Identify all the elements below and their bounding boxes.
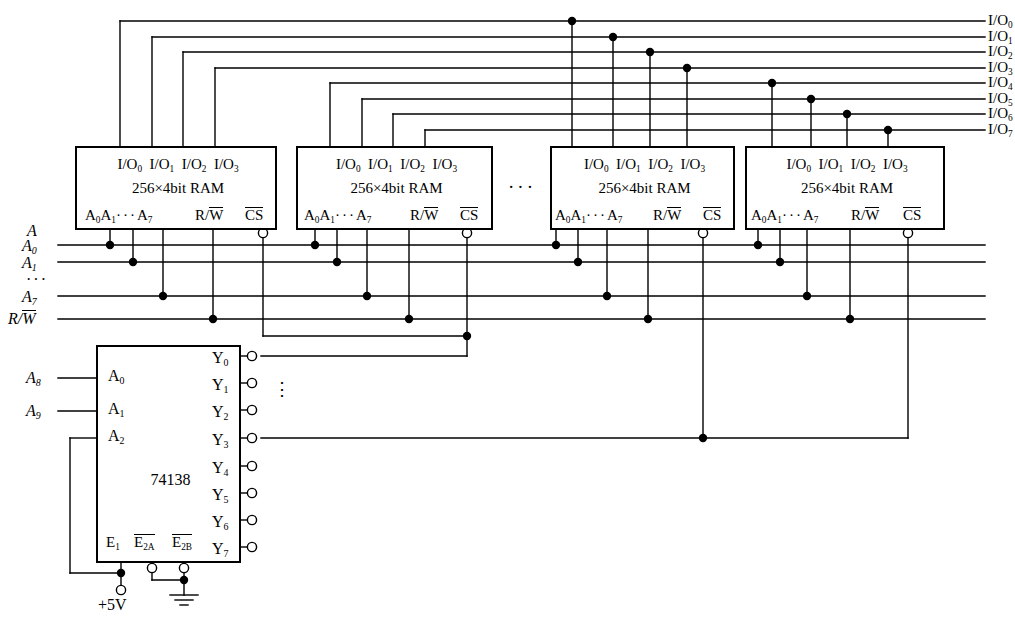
y-output-bubble-icon: [247, 461, 256, 470]
ram-4-io-pins: I/O0 I/O1 I/O2 I/O3: [747, 157, 947, 172]
ram-block-2[interactable]: I/O0 I/O1 I/O2 I/O3 256×4bit RAM A0A1···…: [296, 146, 493, 230]
junction-dot: [754, 241, 762, 249]
junction-dot: [311, 241, 319, 249]
decoder-output-y1: Y1: [212, 377, 229, 393]
address-label-ellipsis: ···: [26, 272, 48, 288]
y-output-bubble-icon: [247, 405, 256, 414]
ram-block-3[interactable]: I/O0 I/O1 I/O2 I/O3 256×4bit RAM A0A1···…: [550, 146, 735, 230]
y-output-bubble-icon: [247, 515, 256, 524]
ram-1-cs-pin: CS: [245, 208, 263, 223]
ram-block-1[interactable]: I/O0 I/O1 I/O2 I/O3 256×4bit RAM A0A1···…: [75, 146, 277, 230]
rw-signal-label: R/W: [8, 311, 36, 327]
ram-1-type: 256×4bit RAM: [77, 181, 279, 196]
decoder-input-a0: A0: [108, 368, 125, 384]
ram-2-type: 256×4bit RAM: [298, 181, 495, 196]
ram-2-addr-pins: A0A1···A7: [304, 208, 372, 223]
ram-array-ellipsis: ···: [508, 177, 536, 196]
supply-label: +5V: [98, 597, 127, 613]
junction-dot: [405, 315, 413, 323]
y-output-bubble-icon: [247, 433, 256, 442]
decoder-input-a2: A2: [108, 428, 125, 444]
io-bus-label-0: I/O0: [988, 13, 1013, 28]
junction-dot: [768, 79, 776, 87]
ram-4-rw-pin: R/W: [851, 208, 879, 223]
junction-dot: [803, 292, 811, 300]
ram-1-addr-pins: A0A1···A7: [85, 208, 153, 223]
decoder-74138[interactable]: A0 A1 A2 74138 E1 E2A E2B Y0 Y1 Y2 Y3 Y4…: [96, 345, 241, 563]
address-label-a9: A9: [26, 403, 41, 419]
ram-3-rw-pin: R/W: [653, 208, 681, 223]
supply-terminal-icon: [116, 585, 125, 594]
junction-dot: [574, 258, 582, 266]
ram-block-4[interactable]: I/O0 I/O1 I/O2 I/O3 256×4bit RAM A0A1···…: [745, 146, 945, 230]
ram-4-addr-pins: A0A1···A7: [751, 208, 819, 223]
junction-dot: [180, 576, 188, 584]
decoder-enable-e2b: E2B: [172, 535, 192, 550]
decoder-output-y3: Y3: [212, 432, 229, 448]
junction-dot: [129, 258, 137, 266]
decoder-output-y4: Y4: [212, 460, 229, 476]
ram-2-cs-pin: CS: [460, 208, 478, 223]
ram-3-cs-pin: CS: [703, 208, 721, 223]
y-output-bubble-icon: [247, 542, 256, 551]
io-bus-label-6: I/O6: [988, 106, 1013, 121]
junction-dot: [683, 64, 691, 72]
ram-3-addr-pins: A0A1···A7: [555, 208, 623, 223]
junction-dot: [552, 241, 560, 249]
junction-dot: [646, 48, 654, 56]
io-bus-label-7: I/O7: [988, 122, 1013, 137]
address-label-a1: A1: [22, 255, 37, 271]
junction-dot: [644, 315, 652, 323]
ram-3-io-pins: I/O0 I/O1 I/O2 I/O3: [552, 157, 737, 172]
junction-dot: [776, 258, 784, 266]
decoder-output-y0: Y0: [212, 350, 229, 366]
junction-dot: [159, 292, 167, 300]
io-bus-label-4: I/O4: [988, 75, 1013, 90]
y-output-bubble-icon: [247, 488, 256, 497]
ram-1-rw-pin: R/W: [195, 208, 223, 223]
decoder-enable-e1: E1: [106, 535, 120, 550]
e2a-bubble-icon: [147, 563, 156, 572]
junction-dot: [846, 315, 854, 323]
e2b-bubble-icon: [179, 563, 188, 572]
junction-dot: [106, 241, 114, 249]
decoder-enable-e2a: E2A: [134, 535, 155, 550]
address-label-a7: A7: [22, 289, 37, 305]
junction-dot: [117, 569, 125, 577]
junction-dot: [209, 315, 217, 323]
decoder-output-y6: Y6: [212, 514, 229, 530]
y-output-bubble-icon: [247, 351, 256, 360]
io-bus-label-5: I/O5: [988, 91, 1013, 106]
decoder-output-y7: Y7: [212, 541, 229, 557]
junction-dot: [699, 434, 707, 442]
junction-dot: [463, 332, 471, 340]
circuit-diagram: I/O0 I/O1 I/O2 I/O3 I/O4 I/O5 I/O6 I/O7 …: [0, 0, 1015, 636]
decoder-output-ellipsis: ⋮: [273, 380, 291, 398]
decoder-output-y5: Y5: [212, 487, 229, 503]
junction-dot: [333, 258, 341, 266]
junction-dot: [568, 17, 576, 25]
y-output-bubble-icon: [247, 378, 256, 387]
address-label-a0: A0: [22, 238, 37, 254]
ram-2-rw-pin: R/W: [410, 208, 438, 223]
junction-dot: [807, 95, 815, 103]
junction-dot: [603, 292, 611, 300]
junction-dot: [843, 110, 851, 118]
ram-1-io-pins: I/O0 I/O1 I/O2 I/O3: [77, 157, 279, 172]
decoder-input-a1: A1: [108, 401, 125, 417]
ram-4-type: 256×4bit RAM: [747, 181, 947, 196]
ram-4-cs-pin: CS: [903, 208, 921, 223]
address-label-a8: A8: [26, 370, 41, 386]
io-bus-label-3: I/O3: [988, 60, 1013, 75]
decoder-output-y2: Y2: [212, 404, 229, 420]
ram-3-type: 256×4bit RAM: [552, 181, 737, 196]
io-bus-label-2: I/O2: [988, 44, 1013, 59]
io-bus-label-1: I/O1: [988, 29, 1013, 44]
junction-dot: [884, 126, 892, 134]
junction-dot: [363, 292, 371, 300]
junction-dot: [609, 33, 617, 41]
ram-2-io-pins: I/O0 I/O1 I/O2 I/O3: [298, 157, 495, 172]
